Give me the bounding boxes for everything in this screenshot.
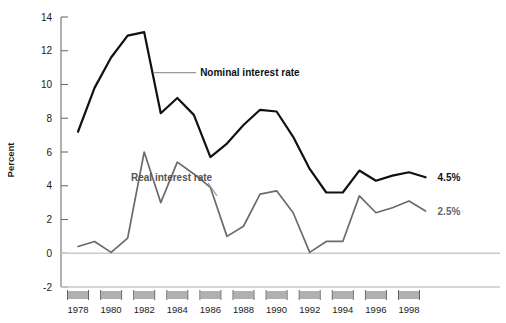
x-tick-box	[200, 291, 220, 299]
x-tick-label: 1984	[167, 304, 188, 315]
x-tick-label: 1990	[266, 304, 287, 315]
y-axis-title: Percent	[5, 142, 16, 178]
chart-canvas: 14121086420-2197819801982198419861988199…	[0, 0, 506, 323]
x-tick-box	[399, 291, 419, 299]
x-tick-box	[167, 291, 187, 299]
y-tick-label: -2	[43, 282, 52, 293]
y-tick-label: 0	[46, 248, 52, 259]
x-tick-label: 1978	[67, 304, 88, 315]
x-tick-box	[68, 291, 88, 299]
x-tick-label: 1994	[332, 304, 353, 315]
real-series-label: Real interest rate	[131, 172, 213, 183]
x-tick-box	[300, 291, 320, 299]
x-tick-box	[267, 291, 287, 299]
y-tick-label: 14	[41, 12, 53, 23]
x-tick-box	[234, 291, 254, 299]
x-tick-box	[101, 291, 121, 299]
x-tick-label: 1998	[398, 304, 419, 315]
x-tick-label: 1992	[299, 304, 320, 315]
x-tick-label: 1996	[365, 304, 386, 315]
x-tick-box	[366, 291, 386, 299]
x-tick-label: 1982	[134, 304, 155, 315]
y-tick-label: 2	[46, 214, 52, 225]
x-tick-label: 1988	[233, 304, 254, 315]
x-tick-box	[134, 291, 154, 299]
interest-rate-line-chart: 14121086420-2197819801982198419861988199…	[0, 0, 506, 323]
x-tick-label: 1986	[200, 304, 221, 315]
y-tick-label: 12	[41, 45, 53, 56]
y-tick-label: 6	[46, 147, 52, 158]
nominal-series-label: Nominal interest rate	[200, 67, 300, 78]
y-tick-label: 8	[46, 113, 52, 124]
real-end-value: 2.5%	[438, 206, 461, 217]
y-tick-label: 4	[46, 180, 52, 191]
x-tick-label: 1980	[101, 304, 122, 315]
nominal-end-value: 4.5%	[438, 172, 461, 183]
chart-background	[0, 0, 506, 323]
x-tick-box	[333, 291, 353, 299]
y-tick-label: 10	[41, 79, 53, 90]
